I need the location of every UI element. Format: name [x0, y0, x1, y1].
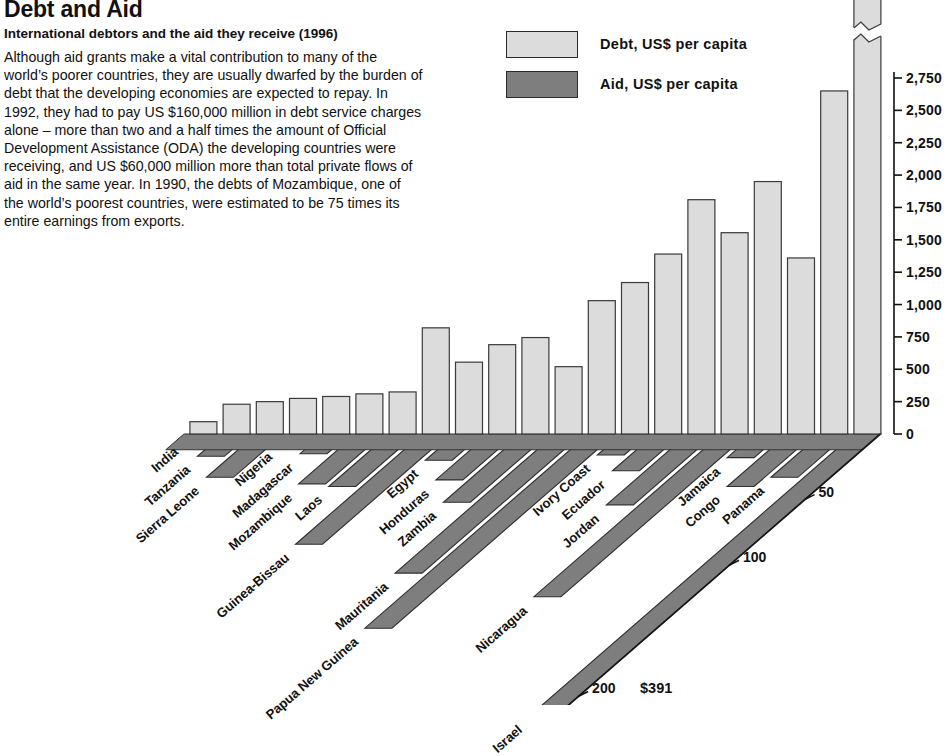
chart-floor	[166, 434, 880, 450]
debt-bar	[256, 402, 283, 434]
debt-bar	[323, 396, 350, 434]
debt-bar	[223, 404, 250, 434]
debt-bar	[688, 200, 715, 434]
debt-bar	[456, 362, 483, 434]
y-axis-tick-label: 1,500	[906, 232, 942, 248]
debt-bar	[522, 338, 549, 434]
y-axis-tick-label: 250	[906, 394, 930, 410]
debt-bar	[788, 258, 815, 434]
category-label: Israel	[490, 722, 525, 756]
y-axis-tick-label: 2,250	[906, 135, 942, 151]
y-axis-tick-label: 1,250	[906, 264, 942, 280]
y-axis-tick-label: 2,750	[906, 70, 942, 86]
debt-bar	[356, 394, 383, 434]
debt-bar	[721, 233, 748, 434]
depth-axis-tick-label: 50	[819, 484, 835, 500]
israel-aid-value: $391	[640, 680, 672, 696]
debt-bar	[622, 283, 649, 434]
debt-bar	[754, 182, 781, 434]
y-axis-tick-label: 500	[906, 361, 930, 377]
y-axis-tick-label: 750	[906, 329, 930, 345]
debt-bar	[389, 392, 416, 434]
debt-bar	[190, 422, 217, 434]
y-axis-tick-label: 2,000	[906, 167, 942, 183]
debt-bar	[588, 301, 615, 434]
y-axis-tick-label: 0	[906, 426, 914, 442]
debt-bar	[290, 398, 317, 434]
y-axis-tick-label: 1,000	[906, 297, 942, 313]
y-axis-tick-label: 1,750	[906, 199, 942, 215]
depth-axis-tick-label: 200	[592, 680, 615, 696]
debt-bars-layer	[190, 0, 882, 434]
debt-bar	[853, 0, 882, 434]
debt-bar	[821, 91, 848, 434]
debt-bar	[489, 345, 516, 434]
y-axis-tick-label: 2,500	[906, 102, 942, 118]
depth-axis-tick-label: 100	[743, 549, 766, 565]
debt-bar	[555, 367, 582, 434]
debt-bar	[422, 328, 449, 434]
debt-bar	[655, 254, 682, 434]
